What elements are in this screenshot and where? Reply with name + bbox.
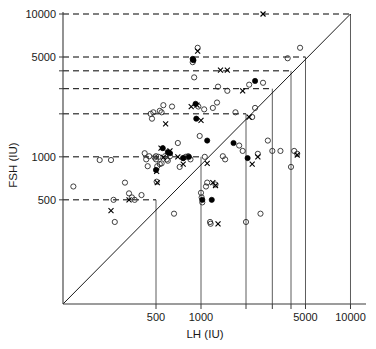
x-tick-label: 5000: [293, 311, 317, 323]
x-tick-label: 1000: [189, 311, 213, 323]
x-axis-tick-marks: [156, 304, 350, 309]
data-point-filled: [181, 155, 186, 160]
y-axis-tick-labels: 5001000500010000: [25, 8, 56, 206]
data-point-open: [285, 56, 290, 61]
data-points-open-circle: [71, 45, 303, 226]
x-tick-label: 10000: [335, 311, 366, 323]
data-point-open: [122, 180, 127, 185]
data-point-open: [97, 157, 102, 162]
data-point-open: [202, 107, 207, 112]
data-point-open: [297, 45, 302, 50]
data-point-filled: [186, 154, 191, 159]
data-point-open: [197, 133, 202, 138]
x-axis-tick-labels: 5001000500010000: [147, 311, 366, 323]
data-point-open: [161, 103, 166, 108]
data-point-open: [145, 164, 150, 169]
data-point-open: [240, 148, 245, 153]
data-point-open: [278, 148, 283, 153]
data-point-open: [258, 211, 263, 216]
data-point-open: [265, 138, 270, 143]
data-point-filled: [209, 197, 214, 202]
data-point-open: [71, 184, 76, 189]
data-point-open: [171, 211, 176, 216]
data-point-open: [147, 154, 152, 159]
data-point-open: [112, 219, 117, 224]
data-point-filled: [252, 78, 257, 83]
horizontal-dashed-gridlines: [63, 14, 350, 200]
plot-canvas: 5001000500010000 5001000500010000 FSH (I…: [0, 0, 376, 349]
data-point-filled: [231, 140, 236, 145]
data-point-open: [202, 154, 207, 159]
y-axis-tick-marks: [59, 14, 63, 200]
data-point-open: [192, 75, 197, 80]
data-points-cross: [109, 12, 300, 227]
data-point-open: [292, 148, 297, 153]
data-point-open: [260, 80, 265, 85]
data-point-filled: [194, 116, 199, 121]
data-point-open: [247, 82, 252, 87]
data-point-open: [169, 104, 174, 109]
data-point-open: [149, 116, 154, 121]
y-tick-label: 10000: [25, 8, 56, 20]
x-axis-title: LH (IU): [186, 328, 223, 340]
data-point-open: [210, 105, 215, 110]
data-point-open: [108, 157, 113, 162]
data-point-filled: [205, 138, 210, 143]
data-point-filled: [200, 197, 205, 202]
data-point-open: [214, 100, 219, 105]
y-tick-label: 5000: [32, 51, 56, 63]
y-tick-label: 1000: [32, 151, 56, 163]
x-tick-label: 500: [147, 311, 165, 323]
scatter-plot-figure: 5001000500010000 5001000500010000 FSH (I…: [0, 0, 376, 349]
data-point-open: [159, 161, 164, 166]
axis-lines: [63, 12, 366, 304]
data-point-open: [139, 192, 144, 197]
data-point-open: [237, 143, 242, 148]
data-point-open: [175, 140, 180, 145]
data-point-filled: [191, 58, 196, 63]
y-tick-label: 500: [38, 194, 56, 206]
y-axis-title: FSH (IU): [7, 142, 19, 188]
data-point-filled: [245, 155, 250, 160]
data-point-open: [144, 157, 149, 162]
